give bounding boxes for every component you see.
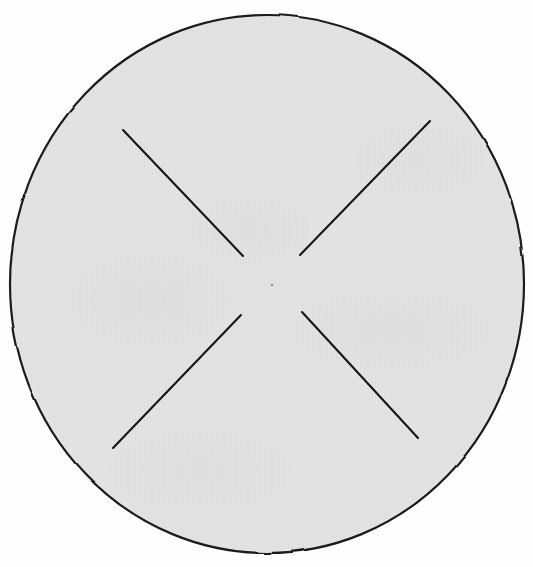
figure-svg — [0, 0, 533, 567]
center-dot — [271, 284, 273, 286]
disc-group — [10, 15, 524, 553]
figure-canvas — [0, 0, 533, 567]
circle-outline — [10, 15, 524, 553]
